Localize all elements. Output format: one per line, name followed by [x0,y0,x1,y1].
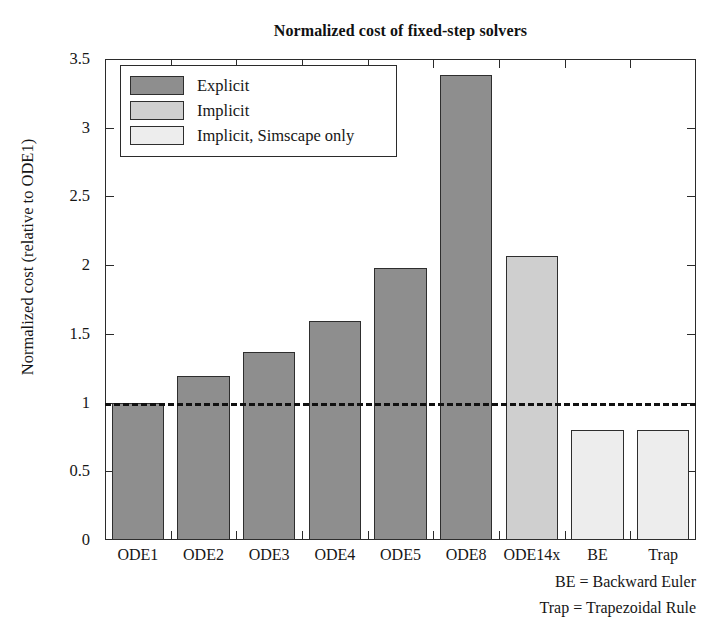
legend-label: Explicit [197,76,249,96]
legend-swatch-icon [130,101,184,120]
x-tick-mark [630,531,631,540]
y-tick-label: 3 [82,118,90,138]
y-tick-mark [105,128,114,129]
y-tick-label: 0.5 [69,461,90,481]
x-tick-label-ode14x: ODE14x [503,546,560,564]
bar-trap [637,430,690,540]
y-tick-label: 0 [82,530,90,550]
x-tick-label-ode8: ODE8 [446,546,487,564]
legend-item: Explicit [130,73,387,98]
x-tick-mark [368,531,369,540]
y-tick-mark [687,265,696,266]
x-tick-mark [499,59,500,68]
x-tick-mark [565,59,566,68]
y-tick-label: 1.5 [69,324,90,344]
legend-swatch-icon [130,126,184,145]
bar-ode1 [112,403,165,540]
y-tick-mark [105,196,114,197]
y-tick-label: 3.5 [69,49,90,69]
x-tick-label-ode2: ODE2 [183,546,224,564]
legend-label: Implicit [197,101,249,121]
x-tick-mark [302,531,303,540]
y-tick-label: 2.5 [69,186,90,206]
x-tick-mark [433,531,434,540]
annotation-be: BE = Backward Euler [555,573,696,591]
x-tick-label-be: BE [587,546,607,564]
x-tick-label-ode1: ODE1 [117,546,158,564]
x-tick-label-ode4: ODE4 [314,546,355,564]
x-tick-mark [236,531,237,540]
bar-ode8 [440,75,493,540]
bar-ode14x [506,256,559,540]
legend-swatch-icon [130,76,184,95]
x-tick-label-trap: Trap [648,546,678,564]
bar-ode3 [243,352,296,540]
reference-line-y1 [105,403,696,406]
y-tick-mark [105,334,114,335]
chart-figure: Normalized cost of fixed-step solvers No… [0,0,724,637]
x-tick-label-ode3: ODE3 [249,546,290,564]
x-tick-label-ode5: ODE5 [380,546,421,564]
legend-item: Implicit, Simscape only [130,123,387,148]
y-tick-label: 1 [82,393,90,413]
y-tick-mark [687,334,696,335]
chart-title: Normalized cost of fixed-step solvers [105,22,696,40]
annotation-trap: Trap = Trapezoidal Rule [540,599,696,617]
bar-be [571,430,624,540]
x-tick-mark [171,531,172,540]
bar-ode2 [177,376,230,540]
y-tick-mark [687,196,696,197]
y-tick-mark [687,128,696,129]
x-tick-mark [630,59,631,68]
y-tick-mark [105,265,114,266]
bar-ode4 [309,321,362,540]
y-tick-label: 2 [82,255,90,275]
x-tick-mark [433,59,434,68]
x-tick-mark [499,531,500,540]
y-axis-label: Normalized cost (relative to ODE1) [18,0,38,517]
chart-legend: ExplicitImplicitImplicit, Simscape only [120,65,397,157]
legend-item: Implicit [130,98,387,123]
legend-label: Implicit, Simscape only [197,126,354,146]
x-tick-mark [565,531,566,540]
